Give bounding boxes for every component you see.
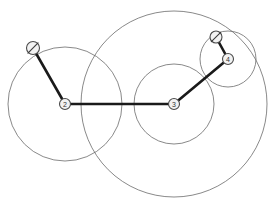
diagram-svg: 234 [0,0,272,204]
node-sink-right[interactable] [210,31,222,43]
diagram-canvas: 234 [0,0,272,204]
node-4[interactable]: 4 [223,54,234,65]
node-3[interactable]: 3 [169,99,180,110]
node-4-disc[interactable] [223,54,234,65]
node-2-disc[interactable] [60,99,71,110]
edge-1-2 [33,48,65,104]
node-source-left[interactable] [27,42,40,55]
node-3-disc[interactable] [169,99,180,110]
node-2[interactable]: 2 [60,99,71,110]
